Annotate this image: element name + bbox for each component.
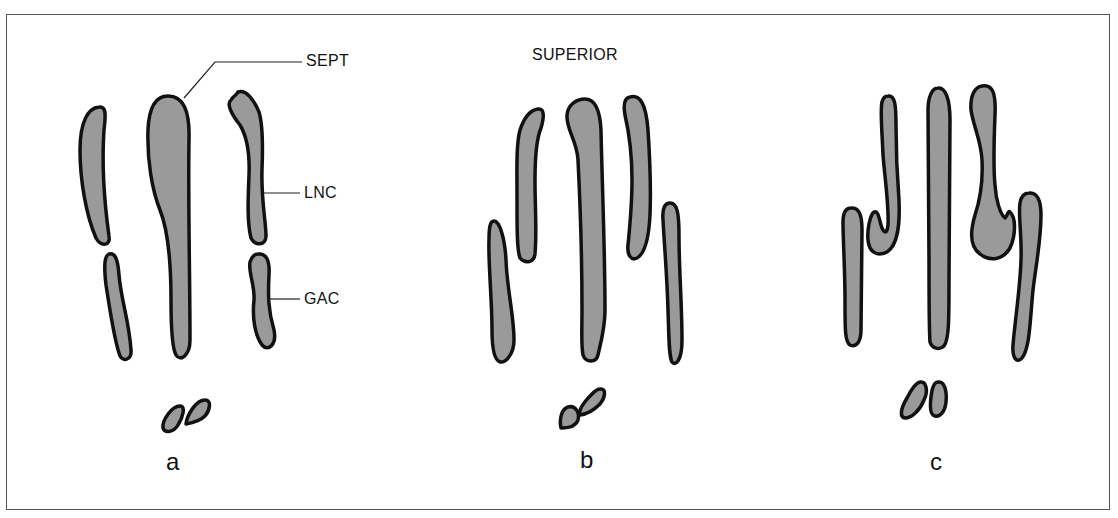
panel-a-left-lower-structure [105, 254, 131, 360]
panel-c-right-curled-structure [971, 86, 1015, 259]
panel-a-septum [148, 96, 190, 358]
panel-a-small-fragment-right [186, 400, 210, 424]
panel-b-shapes [489, 96, 682, 428]
panel-c-far-right-structure [1013, 193, 1041, 360]
panel-c-left-curled-structure [868, 96, 899, 254]
panel-c-shapes [843, 86, 1041, 418]
panel-b-label: b [580, 446, 593, 474]
panel-b-small-fragment-left [560, 407, 578, 428]
panel-a-gac [250, 254, 275, 348]
panel-a-left-upper-structure [80, 107, 109, 244]
panel-c-far-left-structure [843, 208, 862, 346]
panel-a-lnc [229, 92, 266, 244]
superior-orientation-label: SUPERIOR [532, 46, 618, 64]
nasal-structure-diagram [0, 0, 1118, 518]
panel-a-shapes [80, 62, 302, 432]
panel-c-small-fragment-left [901, 382, 926, 418]
sept-label: SEPT [306, 52, 349, 70]
lnc-label: LNC [304, 184, 337, 202]
panel-b-far-right-structure [663, 203, 682, 363]
panel-b-left-upper-structure [517, 109, 543, 262]
panel-c-label: c [930, 448, 942, 476]
panel-c-small-fragment-right [930, 382, 946, 416]
gac-label: GAC [304, 290, 340, 308]
panel-b-small-fragment-right [580, 389, 605, 415]
panel-c-septum [928, 88, 950, 348]
panel-b-far-left-structure [489, 221, 514, 362]
panel-b-right-upper-structure [624, 96, 650, 258]
panel-b-septum [567, 99, 605, 361]
panel-a-label: a [166, 448, 179, 476]
panel-a-small-fragment-left [163, 406, 183, 432]
